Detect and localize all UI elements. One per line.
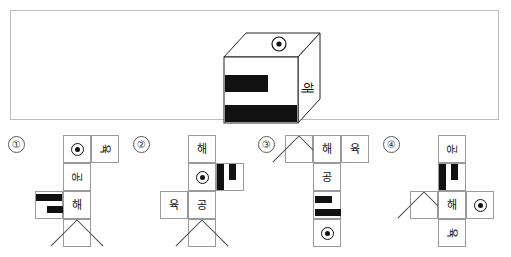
stripe-bar-upper	[36, 194, 62, 201]
stripe-bar-right	[451, 164, 458, 180]
option-3-cell-hae[interactable]: 해	[313, 135, 341, 163]
option-3[interactable]: ③ 해 육 공	[258, 128, 378, 254]
option-3-cell-x[interactable]	[285, 135, 313, 163]
option-2-cell-dot[interactable]	[188, 163, 216, 191]
option-2-cell-yuk-label: 육	[161, 192, 187, 218]
option-1-cell-dot[interactable]	[63, 135, 91, 163]
dot-icon	[474, 199, 487, 212]
option-2-cell-gong[interactable]: 공	[188, 191, 216, 219]
option-2-cell-yuk[interactable]: 육	[160, 191, 188, 219]
question-panel: 해	[10, 10, 499, 120]
option-4-cell-x[interactable]	[410, 191, 438, 219]
option-4[interactable]: ④ 공 해 육	[383, 128, 503, 254]
cube-right-face-label: 해	[300, 79, 314, 97]
option-1-cell-x[interactable]	[63, 219, 91, 247]
cube-svg	[220, 29, 325, 127]
option-4-cell-gong-label: 공	[439, 136, 465, 162]
dot-icon	[71, 143, 84, 156]
option-4-cell-hae-label: 해	[439, 192, 465, 218]
option-3-cell-hae-label: 해	[314, 136, 340, 162]
option-1-cell-gong[interactable]: 공	[63, 163, 91, 191]
option-1-net: 육 공 해	[27, 135, 127, 251]
option-3-net: 해 육 공	[277, 135, 377, 251]
option-3-cell-gong[interactable]: 공	[313, 163, 341, 191]
stripe-bar-left	[439, 164, 446, 190]
option-1-number: ①	[8, 136, 25, 153]
cube-front-bar-lower	[225, 105, 297, 122]
dot-icon-inner	[276, 41, 281, 46]
option-4-cell-yuk[interactable]: 육	[438, 219, 466, 247]
dot-icon	[321, 227, 334, 240]
stripe-bar-upper	[315, 196, 332, 203]
option-3-cell-dot[interactable]	[313, 219, 341, 247]
option-1[interactable]: ① 육 공 해	[8, 128, 128, 254]
option-4-net: 공 해 육	[402, 135, 502, 251]
x-mark-icon	[286, 136, 312, 162]
option-2-cell-x[interactable]	[188, 219, 216, 247]
option-4-cell-stripes[interactable]	[438, 163, 466, 191]
option-2-net: 해 육 공	[152, 135, 252, 251]
option-4-cell-dot[interactable]	[466, 191, 494, 219]
option-1-cell-stripes[interactable]	[35, 191, 63, 219]
worksheet-page: 해 ① 육 공 해	[0, 0, 511, 257]
x-mark-icon	[64, 220, 90, 246]
stripe-bar-right	[229, 164, 236, 180]
option-2[interactable]: ② 해 육 공	[133, 128, 253, 254]
option-1-cell-yuk[interactable]: 육	[91, 135, 119, 163]
option-2-cell-hae-label: 해	[189, 136, 215, 162]
option-4-cell-hae[interactable]: 해	[438, 191, 466, 219]
option-2-cell-gong-label: 공	[189, 192, 215, 218]
option-3-number: ③	[258, 136, 275, 153]
option-4-number: ④	[383, 136, 400, 153]
stripe-bar-left	[217, 164, 224, 190]
option-1-cell-gong-label: 공	[64, 164, 90, 190]
option-4-cell-yuk-label: 육	[439, 220, 465, 246]
option-3-cell-stripes[interactable]	[313, 191, 341, 219]
stripe-bar-lower	[47, 206, 64, 213]
cube-front-bar-upper	[225, 75, 268, 92]
option-2-cell-stripes[interactable]	[216, 163, 244, 191]
option-1-cell-yuk-label: 육	[92, 136, 118, 162]
x-mark-icon	[411, 192, 437, 218]
option-4-cell-gong[interactable]: 공	[438, 135, 466, 163]
option-3-cell-yuk-label: 육	[342, 136, 368, 162]
cube-figure: 해	[220, 29, 325, 127]
x-mark-icon	[189, 220, 215, 246]
option-2-cell-hae[interactable]: 해	[188, 135, 216, 163]
stripe-bar-lower	[315, 209, 341, 216]
option-3-cell-yuk[interactable]: 육	[341, 135, 369, 163]
option-1-cell-hae[interactable]: 해	[63, 191, 91, 219]
option-2-number: ②	[133, 136, 150, 153]
option-3-cell-gong-label: 공	[314, 164, 340, 190]
dot-icon	[196, 171, 209, 184]
option-1-cell-hae-label: 해	[64, 192, 90, 218]
